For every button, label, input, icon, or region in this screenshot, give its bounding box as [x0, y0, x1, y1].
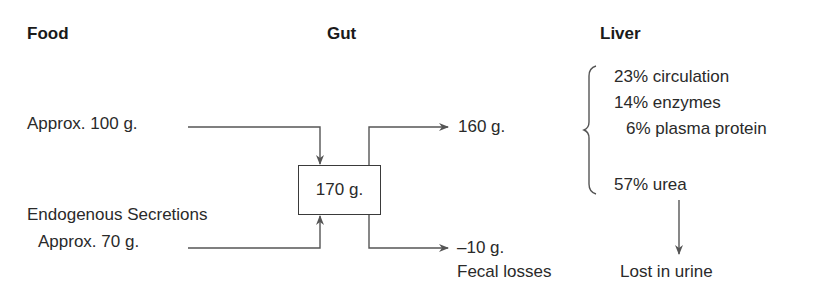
gut-to-fecal-arrow [369, 215, 448, 248]
gut-total-box: 170 g. [298, 165, 381, 215]
food-to-gut-arrow [188, 127, 320, 164]
liver-item-plasma-protein: 6% plasma protein [626, 119, 767, 139]
liver-item-urea: 57% urea [614, 175, 687, 195]
liver-brace [584, 66, 596, 194]
fecal-amount: –10 g. [457, 238, 504, 258]
absorbed-amount: 160 g. [458, 117, 505, 137]
liver-item-circulation: 23% circulation [614, 67, 729, 87]
fecal-label: Fecal losses [457, 262, 551, 282]
secretions-to-gut-arrow [188, 216, 320, 248]
gut-to-absorbed-arrow [369, 127, 448, 165]
flow-connectors [0, 0, 816, 298]
gut-total: 170 g. [316, 180, 363, 200]
urine-label: Lost in urine [620, 262, 713, 282]
liver-item-enzymes: 14% enzymes [614, 93, 721, 113]
